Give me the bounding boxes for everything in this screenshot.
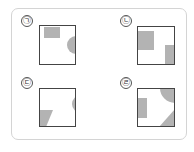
panel-b-left-rect bbox=[138, 31, 154, 50]
panel-d-left-rect bbox=[137, 98, 147, 118]
panel-label-b: ㉡ bbox=[120, 15, 132, 27]
panel-c-trapezoid bbox=[39, 110, 53, 127]
panel-b-square bbox=[137, 26, 175, 65]
panel-a-rect bbox=[44, 27, 60, 38]
panel-label-c: ㉢ bbox=[21, 77, 33, 89]
panel-d-square bbox=[137, 88, 175, 127]
panel-c-square bbox=[39, 88, 76, 127]
panel-label-d: ㉣ bbox=[120, 77, 132, 89]
panel-d-triangle bbox=[159, 109, 175, 127]
panel-b-bottom-right-rect bbox=[165, 45, 175, 65]
panel-label-a: ㉠ bbox=[21, 15, 33, 27]
panel-a-square bbox=[39, 25, 76, 65]
